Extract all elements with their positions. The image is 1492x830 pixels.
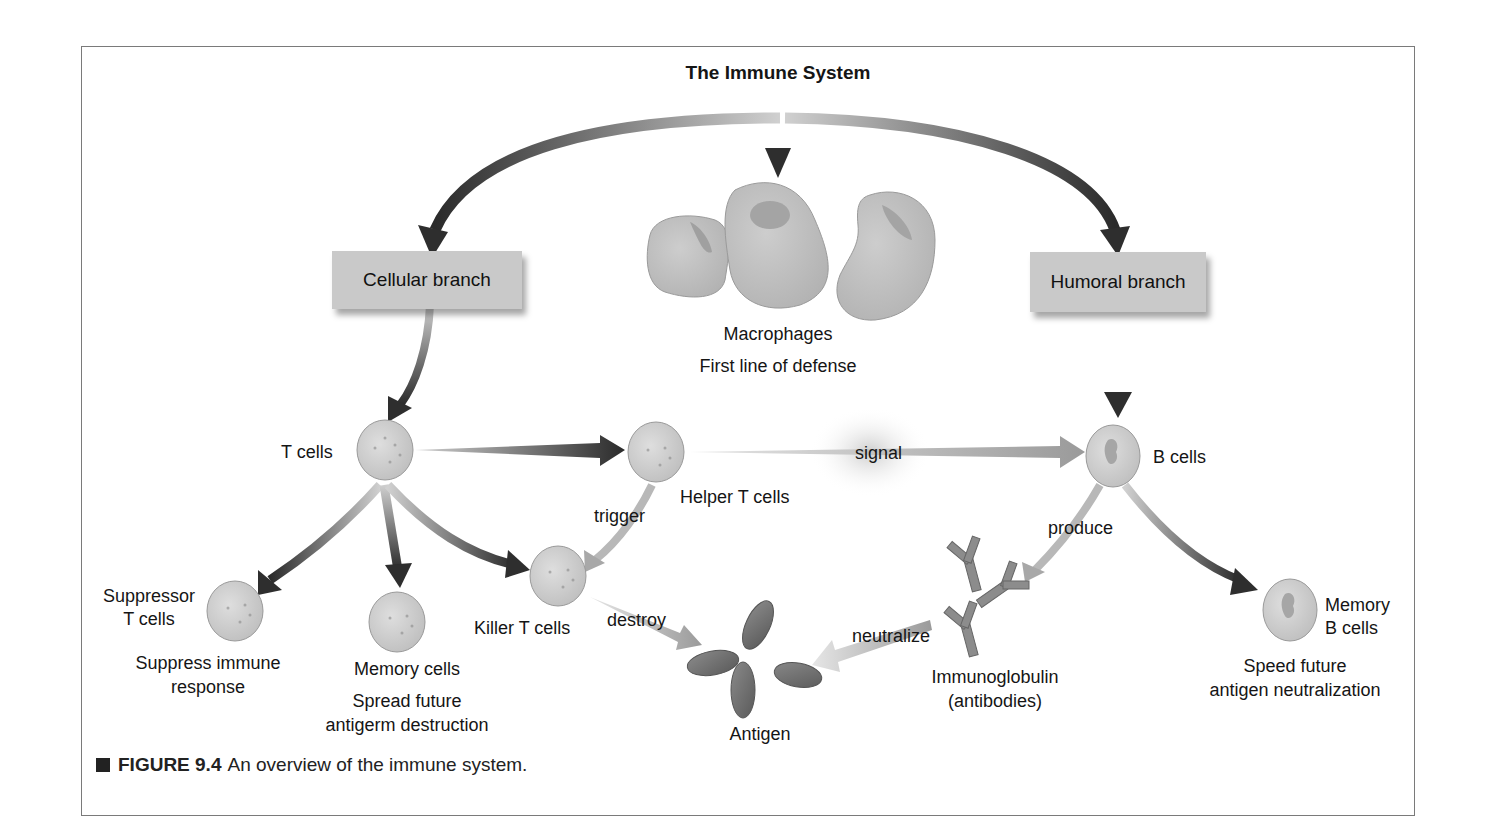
- suppressor-t-label-line2: T cells: [90, 608, 208, 630]
- macrophages-label: Macrophages: [678, 323, 878, 345]
- memory-b-role-line2: antigen neutralization: [1190, 679, 1400, 701]
- caption-square-icon: [96, 758, 110, 772]
- figure-caption: FIGURE 9.4An overview of the immune syst…: [96, 754, 527, 776]
- immunoglobulin-label-line2: (antibodies): [900, 690, 1090, 712]
- memory-cell: [369, 592, 425, 652]
- arrow-to-humoral: [785, 118, 1115, 230]
- b-cell: [1086, 425, 1140, 487]
- memory-cells-label: Memory cells: [322, 658, 492, 680]
- trigger-label: trigger: [594, 505, 645, 527]
- killer-t-cells-label: Killer T cells: [474, 617, 570, 639]
- macrophages-role: First line of defense: [668, 355, 888, 377]
- helper-t-cells-label: Helper T cells: [680, 486, 789, 508]
- t-cell: [357, 420, 413, 480]
- memory-b-role-line1: Speed future: [1200, 655, 1390, 677]
- suppressor-t-cell: [207, 581, 263, 641]
- neutralize-label: neutralize: [852, 625, 930, 647]
- killer-t-cell: [530, 546, 586, 606]
- caption-figure-number: FIGURE 9.4: [118, 754, 221, 775]
- memory-b-label-line2: B cells: [1325, 617, 1378, 639]
- helper-t-cell: [628, 422, 684, 482]
- suppressor-role-line1: Suppress immune: [110, 652, 306, 674]
- humoral-branch-label: Humoral branch: [1050, 271, 1185, 293]
- arrow-t-to-helper: [415, 435, 625, 466]
- destroy-label: destroy: [607, 609, 666, 631]
- suppressor-t-label-line1: Suppressor: [90, 585, 208, 607]
- cellular-branch-label: Cellular branch: [363, 269, 491, 291]
- caption-text: An overview of the immune system.: [227, 754, 527, 775]
- immunoglobulin-label-line1: Immunoglobulin: [900, 666, 1090, 688]
- b-cells-label: B cells: [1153, 446, 1206, 468]
- antigen-illustration: [685, 596, 823, 718]
- memory-role-line2: antigerm destruction: [300, 714, 514, 736]
- suppressor-role-line2: response: [110, 676, 306, 698]
- humoral-branch-box: Humoral branch: [1030, 252, 1206, 312]
- diagram-graphics: [0, 0, 1492, 830]
- signal-label: signal: [855, 442, 902, 464]
- memory-b-cell: [1263, 579, 1317, 641]
- produce-label: produce: [1048, 517, 1113, 539]
- antigen-label: Antigen: [700, 723, 820, 745]
- macrophages-illustration: [647, 183, 935, 320]
- t-cells-label: T cells: [281, 441, 333, 463]
- memory-role-line1: Spread future: [300, 690, 514, 712]
- cellular-branch-box: Cellular branch: [332, 251, 522, 309]
- memory-b-label-line1: Memory: [1325, 594, 1390, 616]
- antibodies-illustration: [943, 534, 1033, 660]
- diagram-title: The Immune System: [640, 62, 916, 84]
